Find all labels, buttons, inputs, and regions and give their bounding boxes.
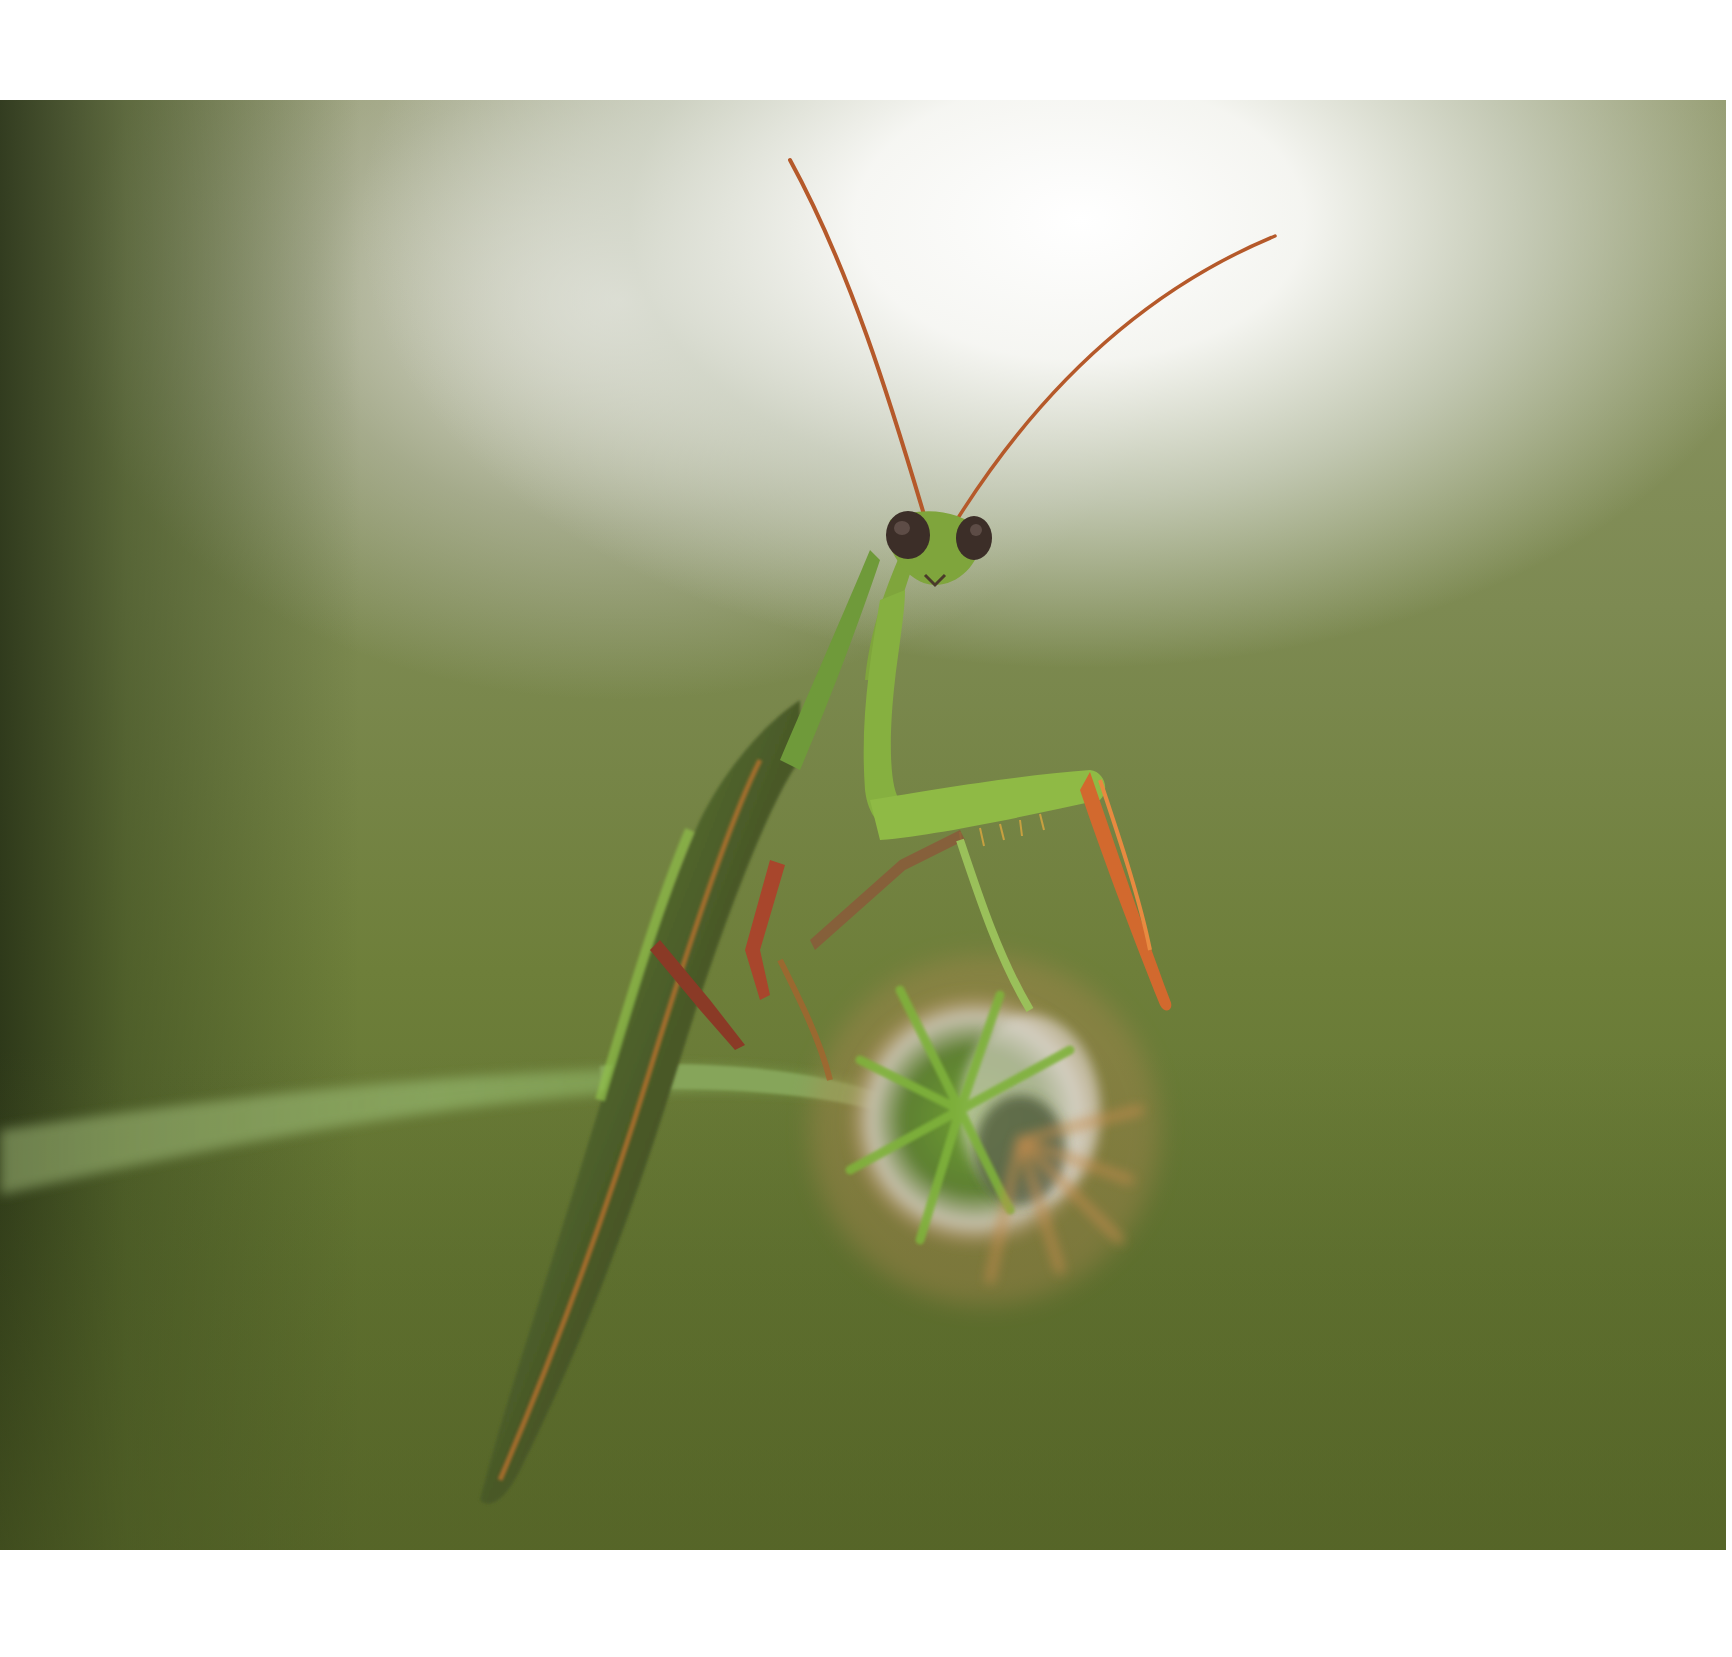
mantis-photo xyxy=(0,100,1726,1550)
left-eye xyxy=(886,511,930,559)
teasel-seed-head xyxy=(810,955,1160,1305)
left-antenna xyxy=(790,160,925,518)
praying-mantis xyxy=(480,160,1275,1504)
page xyxy=(0,0,1732,1657)
mantis-illustration xyxy=(0,100,1726,1550)
right-antenna xyxy=(958,236,1275,518)
plant-stem xyxy=(0,1064,905,1195)
right-eye xyxy=(956,516,992,560)
